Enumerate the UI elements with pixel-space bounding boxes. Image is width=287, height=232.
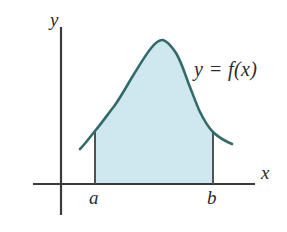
figure-canvas: y x a b y = f(x) bbox=[0, 0, 287, 232]
upper-bound-label: b bbox=[207, 188, 217, 207]
y-axis-label: y bbox=[50, 10, 58, 29]
x-axis-label: x bbox=[261, 163, 269, 182]
diagram-svg bbox=[0, 0, 287, 232]
lower-bound-label: a bbox=[89, 188, 99, 207]
function-equation-label: y = f(x) bbox=[194, 59, 257, 79]
